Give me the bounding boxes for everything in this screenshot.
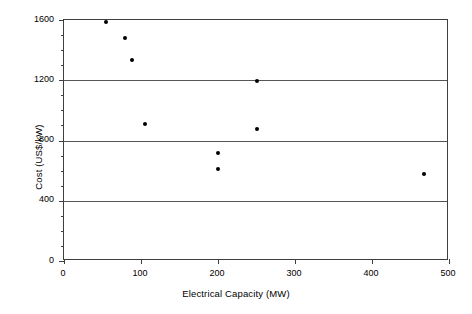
y-tick-minor (61, 171, 64, 172)
data-point (130, 58, 134, 62)
x-tick (141, 259, 142, 264)
data-point (255, 79, 259, 83)
x-axis-title: Electrical Capacity (MW) (0, 288, 472, 299)
gridline (64, 141, 447, 142)
y-tick-minor (61, 95, 64, 96)
x-tick (372, 259, 373, 264)
x-tick-label: 200 (209, 269, 224, 278)
x-tick (449, 259, 450, 264)
y-tick-major (59, 141, 64, 142)
x-tick (218, 259, 219, 264)
gridline (64, 201, 447, 202)
y-tick-major (59, 80, 64, 81)
x-tick-label: 500 (440, 269, 455, 278)
y-tick-label: 0 (49, 256, 54, 265)
x-tick (64, 259, 65, 264)
y-tick-minor (61, 65, 64, 66)
plot-area (63, 19, 448, 260)
data-point (123, 36, 127, 40)
y-tick-minor (61, 50, 64, 51)
y-tick-minor (61, 231, 64, 232)
x-tick-label: 400 (363, 269, 378, 278)
x-tick-label: 100 (132, 269, 147, 278)
y-tick-label: 1600 (34, 15, 54, 24)
y-axis-title: Cost (US$/kW) (33, 124, 44, 189)
y-tick-minor (61, 156, 64, 157)
data-point (143, 122, 147, 126)
y-tick-minor (61, 35, 64, 36)
x-tick (295, 259, 296, 264)
scatter-chart-figure: 040080012001600 0100200300400500 Electri… (0, 0, 472, 314)
x-tick-label: 0 (60, 269, 65, 278)
y-tick-minor (61, 216, 64, 217)
y-tick-minor (61, 110, 64, 111)
y-tick-label: 1200 (34, 75, 54, 84)
data-point (255, 127, 259, 131)
y-tick-major (59, 20, 64, 21)
x-tick-label: 300 (286, 269, 301, 278)
data-point (216, 151, 220, 155)
data-point (422, 172, 426, 176)
data-point (216, 167, 220, 171)
y-tick-major (59, 201, 64, 202)
data-point (104, 20, 108, 24)
y-tick-minor (61, 125, 64, 126)
y-tick-minor (61, 246, 64, 247)
y-tick-label: 400 (39, 195, 54, 204)
y-tick-minor (61, 186, 64, 187)
